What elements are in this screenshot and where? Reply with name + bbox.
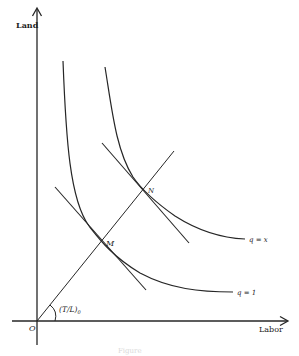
ray-angle-label: (T/L)0: [59, 305, 81, 315]
figure-caption: Figure: [118, 347, 142, 355]
isoquant-diagram: Land Labor O M N q = 1 q = x (T/L)0 Figu…: [0, 0, 299, 356]
tangent-line-n: [102, 143, 189, 243]
angle-arc: [50, 305, 56, 321]
isoquant-qx: [105, 67, 245, 239]
ray-angle-label-main: (T/L): [59, 305, 77, 314]
isoquant-q1-label: q = 1: [237, 289, 256, 297]
point-n-label: N: [147, 187, 155, 195]
origin-label: O: [29, 324, 36, 333]
expansion-ray: [37, 151, 174, 321]
x-axis-label: Labor: [259, 325, 283, 334]
isoquant-qx-label: q = x: [249, 236, 268, 244]
y-axis-label: Land: [16, 20, 39, 30]
ray-angle-label-subscript: 0: [77, 309, 81, 315]
point-m-label: M: [105, 239, 115, 248]
